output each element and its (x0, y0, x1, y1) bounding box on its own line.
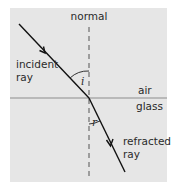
air-label: air (138, 84, 152, 96)
refraction-diagram: normal incident ray i air glass r refrac… (0, 0, 177, 189)
refracted-ray-label-line1: refracted (123, 135, 171, 147)
refracted-ray-label-line2: ray (123, 148, 140, 160)
normal-label: normal (71, 10, 108, 22)
incident-ray-label-line2: ray (16, 71, 33, 83)
angle-i-label: i (81, 75, 84, 87)
incident-ray-label-line1: incident (16, 58, 58, 70)
glass-label: glass (136, 100, 163, 112)
